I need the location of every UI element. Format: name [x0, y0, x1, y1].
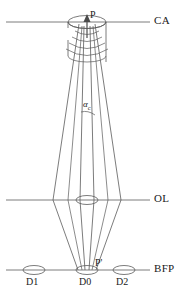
- point-label-p: P: [90, 10, 96, 20]
- plane-label-ol: OL: [154, 193, 169, 204]
- ray-mid-right: [92, 26, 108, 270]
- point-label-p-prime: P': [95, 258, 102, 268]
- wavefront-arc-3: [69, 43, 105, 49]
- ray-inner-right: [89, 26, 94, 270]
- plane-label-ca: CA: [154, 15, 170, 26]
- diagram-canvas: [0, 0, 184, 301]
- angle-marker-arc-alpha-c: [81, 111, 95, 115]
- angle-subscript: c: [88, 104, 91, 111]
- disk-label-d1: D1: [26, 277, 38, 287]
- angle-label-alpha-c: αc: [83, 100, 91, 111]
- disk-label-d2: D2: [116, 277, 128, 287]
- wavefront-arc-4: [66, 49, 108, 56]
- disk-label-d0: D0: [79, 277, 91, 287]
- ray-mid-left: [68, 26, 82, 270]
- plane-label-bfp: BFP: [154, 263, 174, 274]
- ray-inner-left: [80, 26, 85, 270]
- ray-diagram-figure: CA OL BFP P P' αc D1 D0 D2: [0, 0, 184, 301]
